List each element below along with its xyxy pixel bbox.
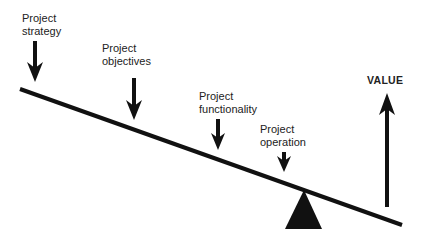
- label-line2: operation: [260, 136, 306, 149]
- label-project-strategy: Project strategy: [22, 12, 61, 38]
- arrow-down-operation: [277, 152, 291, 172]
- label-line1: Project: [260, 123, 306, 136]
- arrow-down-objectives: [126, 78, 142, 120]
- arrow-up-value: [379, 93, 395, 207]
- label-line1: Project: [22, 12, 61, 25]
- arrow-down-functionality: [211, 119, 225, 150]
- arrow-down-strategy: [27, 41, 43, 82]
- label-project-operation: Project operation: [260, 123, 306, 149]
- label-value: VALUE: [367, 74, 403, 86]
- label-line1: Project: [102, 42, 151, 55]
- label-line1: Project: [199, 90, 257, 103]
- label-line2: objectives: [102, 55, 151, 68]
- label-line2: strategy: [22, 25, 61, 38]
- label-project-functionality: Project functionality: [199, 90, 257, 116]
- label-line2: functionality: [199, 103, 257, 116]
- balance-diagram: [0, 0, 425, 239]
- label-project-objectives: Project objectives: [102, 42, 151, 68]
